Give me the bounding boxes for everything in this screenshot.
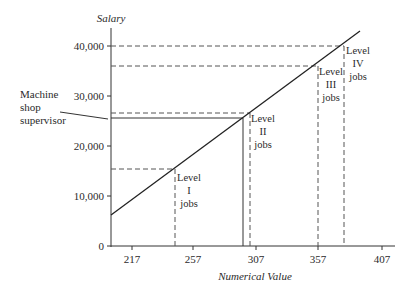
level-1-label-numeral: I	[187, 185, 191, 196]
y-tick-label-30000: 30,000	[74, 90, 105, 102]
x-tick-label-217: 217	[124, 253, 141, 265]
level-1-label-jobs: jobs	[179, 198, 198, 209]
supervisor-callout-line3: supervisor	[20, 114, 66, 126]
y-axis-title: Salary	[97, 12, 126, 24]
x-tick-label-257: 257	[185, 253, 202, 265]
salary-line	[111, 31, 360, 215]
level-3-label-level: Level	[319, 66, 343, 77]
y-tick-label-10000: 10,000	[74, 190, 105, 202]
level-3-label-numeral: III	[326, 79, 337, 90]
level-3-reference	[111, 66, 318, 246]
level-4-reference	[111, 46, 344, 246]
x-tick-label-307: 307	[248, 253, 265, 265]
level-4-label-numeral: IV	[352, 58, 363, 69]
x-tick-label-357: 357	[310, 253, 327, 265]
level-2-label-numeral: II	[260, 126, 267, 137]
level-2-label-level: Level	[251, 113, 275, 124]
y-tick-label-20000: 20,000	[74, 140, 105, 152]
y-ticks	[107, 46, 111, 246]
level-1-label-level: Level	[177, 172, 201, 183]
supervisor-callout-line	[60, 112, 108, 119]
supervisor-callout-line1: Machine	[20, 88, 59, 100]
y-tick-label-0: 0	[99, 240, 105, 252]
level-3-label-jobs: jobs	[321, 92, 340, 103]
level-4-label-level: Level	[346, 45, 370, 56]
x-axis-title: Numerical Value	[217, 270, 292, 282]
supervisor-callout-line2: shop	[20, 101, 41, 113]
x-tick-label-407: 407	[374, 253, 391, 265]
x-ticks	[132, 246, 382, 250]
level-4-label-jobs: jobs	[348, 71, 367, 82]
salary-chart: 0 10,000 20,000 30,000 40,000 217 257 30…	[0, 0, 414, 295]
level-2-label-jobs: jobs	[253, 139, 272, 150]
y-tick-label-40000: 40,000	[74, 40, 105, 52]
